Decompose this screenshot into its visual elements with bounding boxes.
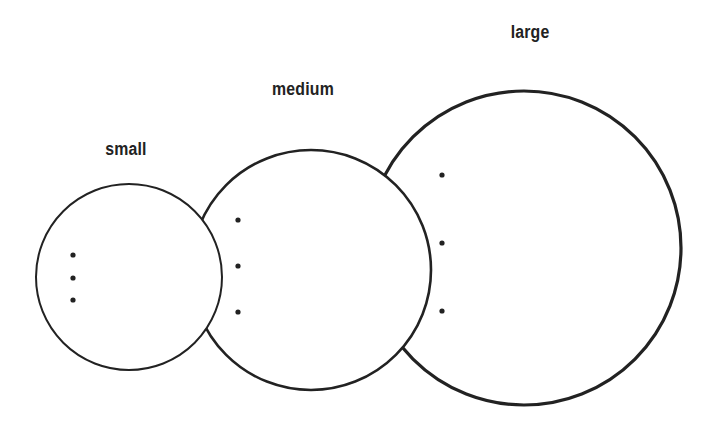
dot-medium-2 <box>235 263 240 268</box>
dot-large-1 <box>439 172 444 177</box>
circle-group-small <box>36 184 222 370</box>
circle-group-medium <box>191 150 431 390</box>
dot-small-3 <box>70 297 75 302</box>
label-medium: medium <box>272 79 334 100</box>
dot-large-2 <box>439 240 444 245</box>
dot-medium-3 <box>235 309 240 314</box>
dot-medium-1 <box>235 217 240 222</box>
label-large: large <box>511 22 550 43</box>
circle-medium <box>191 150 431 390</box>
circle-small <box>36 184 222 370</box>
label-small: small <box>105 139 146 160</box>
circles-svg <box>0 0 715 430</box>
dot-large-3 <box>439 308 444 313</box>
dot-small-1 <box>70 252 75 257</box>
diagram-canvas: large medium small <box>0 0 715 430</box>
dot-small-2 <box>70 275 75 280</box>
